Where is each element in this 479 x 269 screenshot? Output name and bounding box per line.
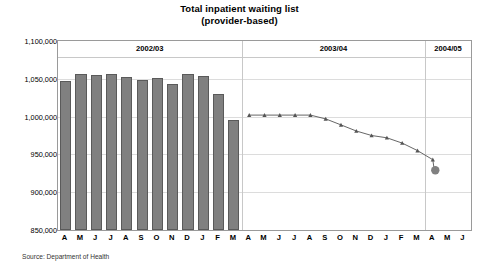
x-axis-tick-label: M xyxy=(260,233,266,242)
y-axis-tick-label: 950,000 xyxy=(3,150,57,159)
x-axis-tick-label: F xyxy=(399,233,404,242)
source-note: Source: Department of Health xyxy=(22,253,109,260)
x-axis-tick-label: O xyxy=(337,233,343,242)
y-axis: 1,100,0001,050,0001,000,000950,000900,00… xyxy=(0,40,57,232)
chart-title-line1: Total inpatient waiting list xyxy=(180,3,299,14)
x-axis-tick-label: A xyxy=(429,233,434,242)
y-axis-tick-label: 900,000 xyxy=(3,188,57,197)
x-axis-tick-label: A xyxy=(245,233,250,242)
trend-line xyxy=(249,115,433,160)
x-axis-tick-label: A xyxy=(62,233,67,242)
plot-inner: 2002/032003/042004/05 xyxy=(58,41,471,230)
line-marker xyxy=(415,149,419,153)
x-axis-tick-label: M xyxy=(444,233,450,242)
chart-root: Total inpatient waiting list (provider-b… xyxy=(0,0,479,269)
y-axis-tick-label: 1,100,000 xyxy=(3,37,57,46)
x-axis-tick-label: J xyxy=(200,233,204,242)
chart-subtitle: (provider-based) xyxy=(0,15,479,27)
x-axis: AMJJASONDJFMAMJJASONDJFMAMJ xyxy=(57,233,472,249)
x-axis-tick-label: A xyxy=(123,233,128,242)
x-axis-tick-label: N xyxy=(169,233,174,242)
x-axis-tick-label: M xyxy=(413,233,419,242)
chart-title: Total inpatient waiting list (provider-b… xyxy=(0,3,479,27)
x-axis-tick-label: A xyxy=(307,233,312,242)
x-axis-tick-label: O xyxy=(153,233,159,242)
x-axis-tick-label: J xyxy=(384,233,388,242)
x-axis-tick-label: J xyxy=(93,233,97,242)
plot-area: 2002/032003/042004/05 xyxy=(57,40,472,231)
y-axis-tick-label: 1,000,000 xyxy=(3,113,57,122)
x-axis-tick-label: F xyxy=(215,233,220,242)
x-axis-tick-label: J xyxy=(460,233,464,242)
x-axis-tick-label: M xyxy=(77,233,83,242)
x-axis-tick-label: S xyxy=(322,233,327,242)
x-axis-tick-label: J xyxy=(292,233,296,242)
y-axis-tick-label: 850,000 xyxy=(3,226,57,235)
x-axis-tick-label: D xyxy=(368,233,373,242)
x-axis-tick-label: J xyxy=(108,233,112,242)
x-axis-tick-label: S xyxy=(139,233,144,242)
y-axis-tick-label: 1,050,000 xyxy=(3,75,57,84)
x-axis-tick-label: D xyxy=(184,233,189,242)
x-axis-tick-label: M xyxy=(230,233,236,242)
line-series-layer xyxy=(58,41,471,230)
x-axis-tick-label: N xyxy=(353,233,358,242)
x-axis-tick-label: J xyxy=(277,233,281,242)
end-point-marker xyxy=(431,166,439,174)
